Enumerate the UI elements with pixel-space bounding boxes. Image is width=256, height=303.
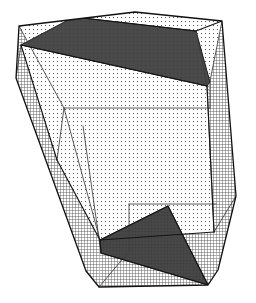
figure-container: 3D polyhedron wireframe with shaded face… [0, 0, 256, 303]
polyhedron-figure [0, 0, 256, 303]
